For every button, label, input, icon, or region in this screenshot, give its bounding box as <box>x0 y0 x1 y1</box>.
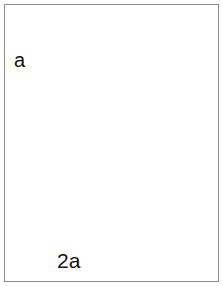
dimension-label-2a: 2a <box>57 250 80 271</box>
figure-container: a 2a <box>0 0 223 286</box>
dimension-a-arrow-down <box>59 45 67 63</box>
dimension-label-a: a <box>14 50 25 70</box>
surgical-illustration <box>5 5 218 281</box>
dimension-2a-arrow-right <box>41 225 61 233</box>
dimension-2a-arrow-left <box>95 233 115 241</box>
